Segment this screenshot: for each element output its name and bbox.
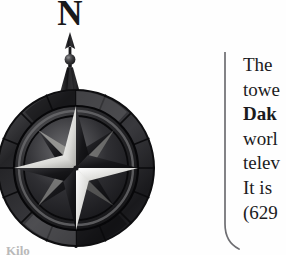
body-text-column: The towe Dak worl telev It is (629 <box>243 53 286 225</box>
document-page: N <box>0 0 286 255</box>
text-line: worl <box>243 127 286 152</box>
north-label: N <box>50 0 90 31</box>
compass-rose-icon <box>0 88 156 248</box>
text-line: The <box>243 53 286 78</box>
text-line: towe <box>243 78 286 103</box>
compass-spire-icon <box>56 32 84 94</box>
bracket-divider-icon <box>214 52 240 252</box>
north-arrow-compass: N <box>0 0 177 255</box>
text-line: (629 <box>243 201 286 226</box>
text-line: telev <box>243 151 286 176</box>
text-line: It is <box>243 176 286 201</box>
scale-caption: Kilo <box>6 243 30 255</box>
text-line-emphasis: Dak <box>243 102 286 127</box>
